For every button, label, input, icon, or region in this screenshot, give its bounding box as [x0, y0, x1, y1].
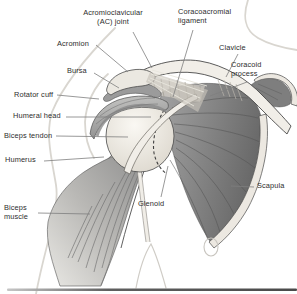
label-acromion: Acromion — [57, 39, 89, 48]
label-glenoid: Glenoid — [138, 199, 164, 208]
shoulder-diagram-page: { "figure": { "labels": { "ac_joint": "A… — [0, 0, 297, 294]
page-edge-line — [7, 289, 297, 291]
label-coracoid-process: Coracoid process — [231, 60, 261, 79]
label-coracoacromial-ligament: Coracoacromial ligament — [178, 7, 231, 26]
label-biceps-tendon: Biceps tendon — [4, 131, 52, 140]
label-ac-joint: Acromioclavicular (AC) joint — [76, 8, 150, 27]
label-humeral-head: Humeral head — [13, 111, 61, 120]
label-scapula: Scapula — [257, 181, 284, 190]
label-biceps-muscle: Biceps muscle — [4, 203, 28, 222]
label-bursa: Bursa — [67, 66, 87, 75]
shoulder-anatomy-illustration — [0, 0, 297, 294]
label-rotator-cuff: Rotator cuff — [14, 90, 53, 99]
label-clavicle: Clavicle — [219, 43, 246, 52]
label-humerus: Humerus — [5, 155, 36, 164]
